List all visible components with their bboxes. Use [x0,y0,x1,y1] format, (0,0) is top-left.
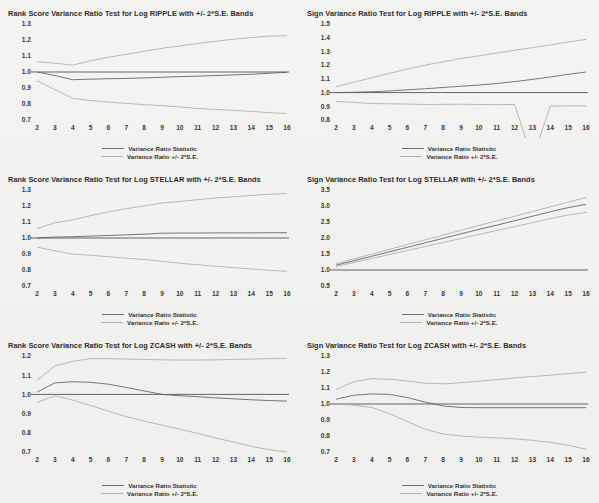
x-axis-tick-label: 13 [529,290,537,297]
y-axis-tick-label: 1.3 [321,352,330,359]
y-axis-tick-label: 1.1 [22,372,31,379]
chart-panel-rank-score-zcash: Rank Score Variance Ratio Test for Log Z… [0,332,299,503]
x-axis-tick-label: 4 [370,124,374,131]
x-axis-tick-label: 16 [283,124,291,131]
series-line-statistic [336,72,586,93]
chart-svg: 0.70.80.91.01.11.21.32345678910111213141… [0,186,299,304]
y-axis-tick-label: 0.5 [321,282,330,289]
legend-label-statistic: Variance Ratio Statistic [428,482,496,489]
chart-panel-rank-score-ripple: Rank Score Variance Ratio Test for Log R… [0,0,299,166]
series-line-band [336,39,586,86]
x-axis-tick-label: 15 [564,290,572,297]
x-axis-tick-label: 5 [388,456,392,463]
x-axis-tick-label: 3 [352,456,356,463]
chart-title: Sign Variance Ratio Test for Log RIPPLE … [307,9,527,18]
y-axis-tick-label: 1.0 [22,234,31,241]
legend-line-swatch-statistic [102,148,124,149]
y-axis-tick-label: 0.9 [321,103,330,110]
legend-line-swatch-statistic [402,314,424,315]
x-axis-tick-label: 2 [35,456,39,463]
x-axis-tick-label: 15 [564,124,572,131]
series-line-statistic [37,382,287,401]
x-axis-tick-label: 13 [529,456,537,463]
x-axis-tick-label: 7 [423,290,427,297]
y-axis-tick-label: 0.7 [22,282,31,289]
x-axis-tick-label: 10 [475,124,483,131]
x-axis-tick-label: 8 [142,290,146,297]
y-axis-tick-label: 0.7 [22,448,31,455]
chart-svg: 0.51.01.52.02.53.03.52345678910111213141… [299,186,598,304]
chart-legend: Variance Ratio Statistic Variance Ratio … [299,145,599,160]
x-axis-tick-label: 5 [89,124,93,131]
x-axis-tick-label: 12 [212,290,220,297]
chart-panel-sign-stellar: Sign Variance Ratio Test for Log STELLAR… [299,166,599,332]
x-axis-tick-label: 9 [459,290,463,297]
x-axis-tick-label: 11 [194,290,201,297]
series-line-band [336,101,586,138]
legend-line-swatch-statistic [402,148,424,149]
y-axis-tick-label: 1.4 [321,34,330,41]
x-axis-tick-label: 9 [160,124,164,131]
legend-item-statistic: Variance Ratio Statistic [402,145,496,152]
x-axis-tick-label: 5 [388,290,392,297]
x-axis-tick-label: 13 [230,124,238,131]
y-axis-tick-label: 1.0 [22,68,31,75]
y-axis-tick-label: 1.0 [321,400,330,407]
x-axis-tick-label: 9 [160,456,164,463]
legend-line-swatch-statistic [102,314,124,315]
y-axis-tick-label: 0.9 [22,410,31,417]
x-axis-tick-label: 4 [370,456,374,463]
x-axis-tick-label: 8 [142,456,146,463]
chart-svg: 0.70.80.91.01.11.22345678910111213141516 [0,352,299,470]
y-axis-tick-label: 2.0 [321,234,330,241]
x-axis-tick-label: 15 [265,456,273,463]
x-axis-tick-label: 13 [529,124,537,131]
x-axis-tick-label: 8 [441,456,445,463]
legend-line-swatch-band [400,322,422,323]
legend-label-statistic: Variance Ratio Statistic [428,311,496,318]
x-axis-tick-label: 5 [89,456,93,463]
y-axis-tick-label: 1.2 [22,202,31,209]
x-axis-tick-label: 4 [71,290,75,297]
legend-label-band: Variance Ratio +/- 2*S.E. [426,153,497,160]
x-axis-tick-label: 14 [547,290,555,297]
x-axis-tick-label: 12 [212,456,220,463]
x-axis-tick-label: 4 [370,290,374,297]
x-axis-tick-label: 11 [493,290,500,297]
chart-svg: 0.70.80.91.01.11.21.32345678910111213141… [299,352,598,470]
x-axis-tick-label: 3 [352,290,356,297]
series-line-band [37,396,287,452]
legend-label-statistic: Variance Ratio Statistic [428,145,496,152]
x-axis-tick-label: 8 [142,124,146,131]
y-axis-tick-label: 0.8 [22,429,31,436]
x-axis-tick-label: 10 [176,124,184,131]
legend-item-statistic: Variance Ratio Statistic [102,311,196,318]
x-axis-tick-label: 12 [511,290,519,297]
x-axis-tick-label: 11 [194,456,201,463]
x-axis-tick-label: 5 [388,124,392,131]
x-axis-tick-label: 2 [334,456,338,463]
x-axis-tick-label: 12 [511,124,519,131]
chart-svg: 0.80.91.01.11.21.31.41.52345678910111213… [299,20,598,138]
legend-label-band: Variance Ratio +/- 2*S.E. [426,319,497,326]
y-axis-tick-label: 0.8 [321,116,330,123]
plot-area: 0.70.80.91.01.11.21.32345678910111213141… [0,186,299,304]
y-axis-tick-label: 1.1 [22,218,31,225]
x-axis-tick-label: 6 [406,456,410,463]
y-axis-tick-label: 1.1 [22,52,31,59]
y-axis-tick-label: 0.8 [22,266,31,273]
y-axis-tick-label: 0.7 [321,448,330,455]
x-axis-tick-label: 6 [107,124,111,131]
legend-item-band: Variance Ratio +/- 2*S.E. [400,319,497,326]
x-axis-tick-label: 14 [248,124,256,131]
chart-title: Sign Variance Ratio Test for Log STELLAR… [307,175,535,184]
chart-panel-rank-score-stellar: Rank Score Variance Ratio Test for Log S… [0,166,299,332]
legend-label-band: Variance Ratio +/- 2*S.E. [127,153,198,160]
legend-line-swatch-band [400,493,422,494]
x-axis-tick-label: 16 [582,290,590,297]
y-axis-tick-label: 1.0 [22,391,31,398]
x-axis-tick-label: 16 [582,124,590,131]
x-axis-tick-label: 3 [352,124,356,131]
legend-label-statistic: Variance Ratio Statistic [128,145,196,152]
y-axis-tick-label: 1.3 [22,186,31,193]
